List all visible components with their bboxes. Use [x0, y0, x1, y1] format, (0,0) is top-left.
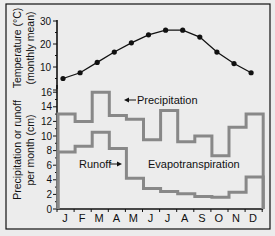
month-label: M [129, 212, 138, 224]
precip-tick-label: 10 [41, 131, 53, 142]
month-label: S [198, 212, 205, 224]
evapotranspiration-label: Evapotranspiration [148, 158, 240, 170]
temperature-axis: 102030Temperature (°C)(monthly mean) [11, 8, 57, 90]
temperature-point [95, 60, 100, 65]
temp-axis-title-line1: Temperature (°C) [11, 8, 23, 89]
month-label: J [62, 212, 68, 224]
month-label: N [232, 212, 240, 224]
temp-tick-label: 20 [40, 39, 52, 50]
precipitation-arrow-icon [124, 98, 129, 103]
temperature-point [249, 70, 254, 75]
precip-tick-label: 14 [41, 101, 53, 112]
month-label: J [165, 212, 171, 224]
temperature-point [231, 61, 236, 66]
runoff-arrow-icon [117, 162, 122, 167]
precip-tick-label: 2 [46, 189, 52, 200]
precip-tick-label: 6 [46, 160, 52, 171]
precip-tick-label: 0 [46, 204, 52, 215]
precipitation-label: Precipitation [137, 94, 198, 106]
precip-axis-title-line1: Precipitation or runoff [11, 100, 23, 200]
temperature-point [214, 49, 219, 54]
temp-axis-title-line2: (monthly mean) [24, 12, 36, 85]
precip-tick-label: 16 [41, 87, 53, 98]
chart-series [58, 28, 263, 209]
month-label: O [215, 212, 224, 224]
temperature-point [180, 28, 185, 33]
temp-tick-label: 10 [40, 62, 52, 73]
runoff-label: Runoff [79, 158, 112, 170]
month-label: F [79, 212, 86, 224]
climate-chart: 102030Temperature (°C)(monthly mean) 024… [0, 0, 275, 236]
temp-tick-label: 30 [40, 16, 52, 27]
temperature-point [129, 40, 134, 45]
precip-tick-label: 12 [41, 116, 53, 127]
month-label: A [113, 212, 121, 224]
month-label: J [148, 212, 154, 224]
temperature-point [60, 76, 65, 81]
runoff-step-line [58, 132, 263, 209]
month-label: M [95, 212, 104, 224]
precip-tick-label: 4 [46, 174, 52, 185]
precip-axis-title-line2: per month (cm) [24, 114, 36, 185]
month-label: D [249, 212, 257, 224]
temperature-point [163, 28, 168, 33]
temperature-point [112, 49, 117, 54]
month-label: A [181, 212, 189, 224]
temperature-point [78, 70, 83, 75]
temperature-point [197, 35, 202, 40]
temperature-line [63, 30, 251, 78]
temperature-point [146, 32, 151, 37]
precip-tick-label: 8 [46, 145, 52, 156]
